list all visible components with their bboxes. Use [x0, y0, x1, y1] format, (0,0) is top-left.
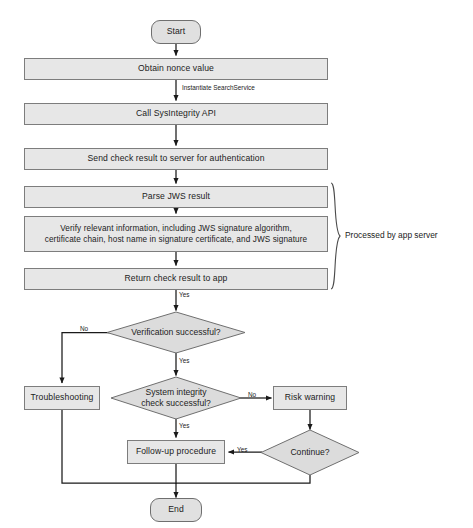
node-parse-jws-result-label: Parse JWS result [142, 191, 210, 203]
decision-verification-shape [107, 312, 245, 353]
edge-label-integrity-yes-text: Yes [179, 422, 189, 429]
node-return-check-result[interactable]: Return check result to app [24, 268, 328, 290]
edge-label-verification-no-text: No [80, 325, 88, 332]
node-follow-up-procedure[interactable]: Follow-up procedure [127, 440, 225, 464]
node-obtain-nonce-label: Obtain nonce value [138, 63, 214, 75]
node-verify-relevant-information[interactable]: Verify relevant information, including J… [24, 216, 328, 252]
node-call-sysintegrity-api[interactable]: Call SysIntegrity API [24, 103, 328, 125]
edge-label-instantiate-text: Instantiate SearchService [182, 84, 255, 91]
edge-label-continue-yes: Yes [237, 447, 247, 453]
node-start[interactable]: Start [151, 20, 201, 44]
decision-continue-shape [261, 430, 359, 475]
node-send-check-result-label: Send check result to server for authenti… [87, 153, 264, 165]
decision-integrity-shape [111, 377, 241, 419]
annotation-app-server: Processed by app server [345, 230, 438, 240]
node-parse-jws-result[interactable]: Parse JWS result [24, 186, 328, 208]
node-end-label: End [168, 504, 184, 516]
node-verify-line-2: certificate chain, host name in signatur… [45, 234, 308, 245]
edge-label-verification-no: No [80, 326, 88, 332]
node-send-check-result[interactable]: Send check result to server for authenti… [24, 148, 328, 170]
node-troubleshooting[interactable]: Troubleshooting [24, 386, 100, 410]
edge-continue-no [176, 475, 310, 483]
node-risk-warning[interactable]: Risk warning [273, 386, 347, 410]
edge-label-return-yes: Yes [179, 292, 189, 298]
edge-label-verification-yes-text: Yes [179, 357, 189, 364]
edge-label-integrity-no-text: No [248, 391, 256, 398]
app-server-brace [331, 183, 340, 289]
edge-verification-no [62, 333, 112, 384]
node-obtain-nonce[interactable]: Obtain nonce value [24, 58, 328, 80]
node-troubleshooting-label: Troubleshooting [31, 392, 94, 404]
node-risk-warning-label: Risk warning [285, 392, 335, 404]
flowchart-canvas: Start End Obtain nonce value Call SysInt… [0, 0, 473, 528]
node-call-sysintegrity-api-label: Call SysIntegrity API [136, 108, 216, 120]
annotation-app-server-text: Processed by app server [345, 230, 438, 240]
node-return-check-result-label: Return check result to app [125, 273, 228, 285]
edge-label-verification-yes: Yes [179, 358, 189, 364]
edge-label-integrity-no: No [248, 392, 256, 398]
node-verify-line-1: Verify relevant information, including J… [60, 223, 292, 234]
edge-label-integrity-yes: Yes [179, 423, 189, 429]
edge-label-return-yes-text: Yes [179, 291, 189, 298]
edge-label-instantiate: Instantiate SearchService [182, 85, 255, 91]
node-follow-up-procedure-label: Follow-up procedure [136, 446, 216, 458]
node-start-label: Start [167, 26, 186, 38]
edge-label-continue-yes-text: Yes [237, 446, 247, 453]
node-end[interactable]: End [150, 498, 202, 522]
